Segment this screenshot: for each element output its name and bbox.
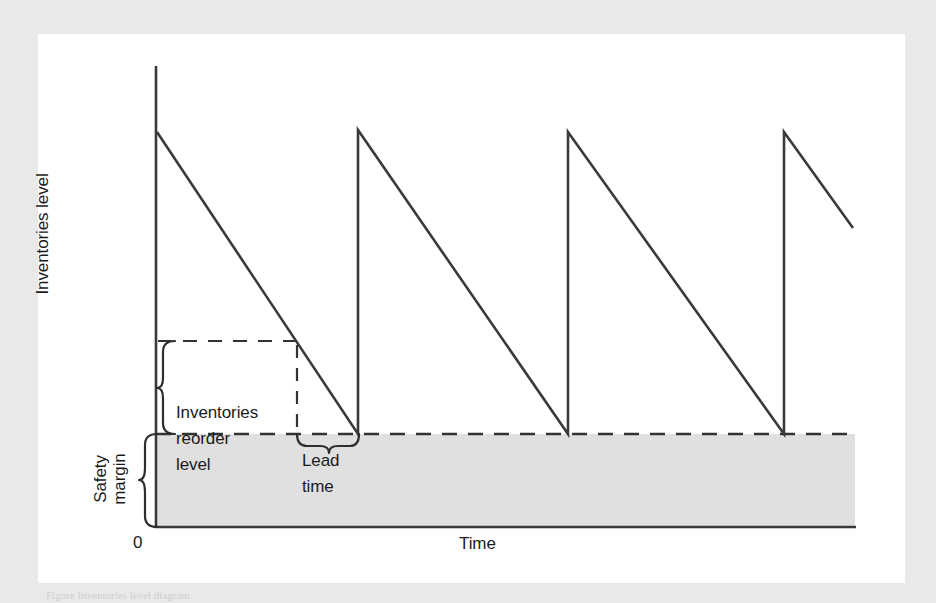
safety-margin-label-line1: Safety [91, 455, 110, 503]
y-axis-title: Inventories level [33, 154, 53, 314]
lead-time-label-line2: time [302, 477, 334, 496]
reorder-level-label-line2: reorder [176, 429, 230, 448]
reorder-level-label-line3: level [176, 455, 210, 474]
figure-caption: Figure Inventories level diagram [46, 589, 190, 601]
reorder-level-brace [157, 341, 175, 434]
safety-margin-brace [139, 434, 157, 527]
origin-label: 0 [133, 533, 142, 553]
x-axis-title: Time [459, 534, 496, 554]
safety-margin-label: Safety margin [91, 414, 129, 544]
inventory-level-curve [157, 130, 853, 434]
lead-time-label: Lead time [302, 448, 339, 500]
reorder-level-label: Inventories reorder level [176, 400, 258, 478]
safety-margin-label-line2: margin [110, 453, 129, 504]
safety-margin-band [156, 434, 855, 527]
reorder-level-label-line1: Inventories [176, 403, 258, 422]
inventory-chart [0, 0, 936, 603]
lead-time-label-line1: Lead [302, 451, 339, 470]
figure-container: Inventories level Safety margin Inventor… [0, 0, 936, 603]
